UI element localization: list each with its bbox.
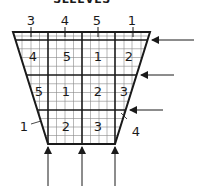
right-arrows [130, 40, 194, 110]
cell-label: 2 [94, 84, 102, 99]
cell-label: 1 [94, 49, 102, 64]
side-label-left: 1 [20, 119, 28, 134]
cell-label: 3 [94, 119, 102, 134]
bottom-arrows [48, 147, 115, 186]
cell-label: 1 [62, 84, 70, 99]
top-label: 1 [128, 13, 136, 28]
cell-label: 3 [120, 84, 128, 99]
cell-label: 5 [63, 49, 71, 64]
cell-label: 4 [29, 49, 37, 64]
cell-label: 2 [62, 119, 70, 134]
top-label: 4 [61, 13, 69, 28]
cell-label: 2 [125, 49, 133, 64]
top-label: 5 [93, 13, 101, 28]
top-label: 3 [27, 13, 35, 28]
leader-line-left [31, 121, 41, 124]
diagram-title: SLEEVES [53, 0, 110, 6]
side-label-right: 4 [132, 124, 140, 139]
sleeves-diagram: SLEEVES [0, 0, 198, 190]
cell-label: 5 [35, 84, 43, 99]
